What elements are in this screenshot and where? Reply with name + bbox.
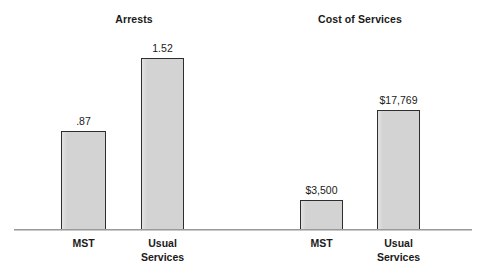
bar-arrests-mst	[61, 131, 106, 230]
category-label-line1: Usual	[148, 237, 177, 249]
category-label-line2: Services	[141, 251, 184, 265]
bar-highlight	[378, 111, 419, 230]
bar-chart-figure: Arrests Cost of Services .87 MST 1.52 Us…	[0, 0, 489, 274]
panel-title-arrests: Arrests	[115, 13, 152, 25]
bar-highlight	[62, 132, 105, 230]
panel-title-cost-of-services: Cost of Services	[318, 13, 402, 25]
bar-cost-usual-services	[377, 110, 420, 230]
value-label-arrests-usual-services: 1.52	[152, 42, 172, 54]
category-label-line1: MST	[310, 237, 332, 249]
category-label-line2: Services	[377, 251, 420, 265]
value-label-arrests-mst: .87	[76, 115, 91, 127]
category-label-line1: Usual	[384, 237, 413, 249]
bar-highlight	[301, 201, 342, 230]
bar-cost-mst	[300, 200, 343, 230]
bar-arrests-usual-services	[141, 58, 184, 230]
category-label-cost-mst: MST	[310, 237, 332, 251]
baseline-axis	[14, 229, 472, 231]
value-label-cost-usual-services: $17,769	[380, 94, 418, 106]
category-label-line1: MST	[72, 237, 94, 249]
category-label-arrests-mst: MST	[72, 237, 94, 251]
category-label-cost-usual-services: Usual Services	[377, 237, 420, 264]
bar-highlight	[142, 59, 183, 230]
category-label-arrests-usual-services: Usual Services	[141, 237, 184, 264]
value-label-cost-mst: $3,500	[305, 184, 337, 196]
